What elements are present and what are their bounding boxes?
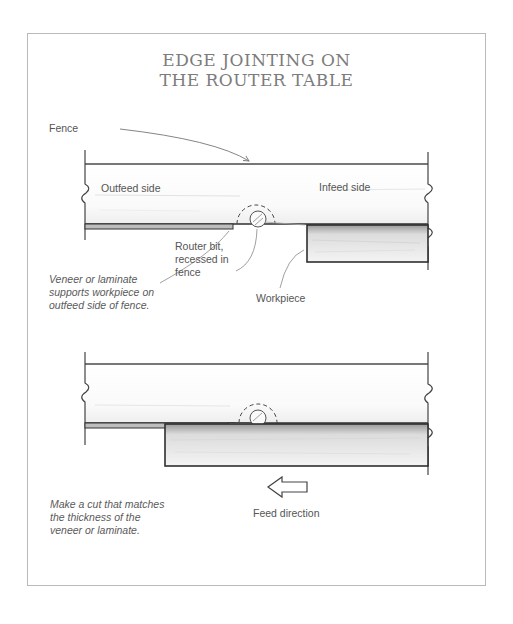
veneer-strip: [85, 224, 233, 229]
label-infeed-side: Infeed side: [319, 181, 370, 194]
diagram-canvas: EDGE JOINTING ON THE ROUTER TABLE: [0, 0, 513, 624]
label-outfeed-side: Outfeed side: [101, 182, 161, 195]
label-workpiece: Workpiece: [256, 292, 305, 305]
workpiece-leader: [280, 250, 304, 288]
workpiece-bottom: [165, 424, 428, 466]
router-bit: [250, 211, 266, 227]
router-bit-leader: [236, 229, 257, 271]
top-diagram: [82, 129, 433, 288]
cut-note: Make a cut that matches the thickness of…: [50, 498, 164, 537]
fence-leader: [120, 129, 249, 161]
label-router-bit: Router bit, recessed in fence: [175, 240, 229, 279]
left-arrow-icon: [268, 477, 307, 497]
label-feed-direction: Feed direction: [253, 507, 320, 520]
label-fence: Fence: [49, 122, 78, 135]
bottom-diagram: [82, 352, 433, 497]
workpiece-top: [307, 225, 428, 262]
veneer-note: Veneer or laminate supports workpiece on…: [49, 273, 154, 312]
